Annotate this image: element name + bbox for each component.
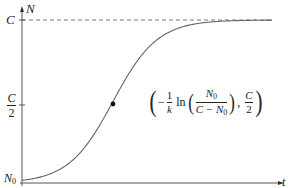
anno-k: k (167, 104, 172, 115)
anno-two: 2 (246, 104, 252, 115)
x-axis-label: t (282, 176, 285, 188)
anno-ln: ln (176, 95, 185, 110)
anno-den-main: C − N (196, 103, 224, 115)
anno-one: 1 (167, 90, 173, 101)
y-axis-label: N (26, 2, 35, 15)
one-over-k: 1 k (167, 90, 173, 115)
paren-close: ) (255, 86, 262, 116)
paren-open: ( (150, 86, 157, 116)
N0-main: N (4, 171, 12, 185)
anno-den-sub: 0 (223, 108, 227, 117)
anno-c: C (245, 90, 252, 101)
anno-denominator: C − N0 (196, 104, 228, 117)
anno-comma: , (237, 95, 240, 110)
N0-label: N0 (4, 172, 16, 186)
paren-open-inner: ( (188, 90, 194, 114)
C-over-2: C 2 (245, 90, 252, 115)
paren-close-inner: ) (229, 90, 235, 114)
anno-numerator: N0 (206, 88, 217, 101)
half-C-label: C 2 (7, 92, 16, 119)
anno-num-main: N (206, 87, 213, 99)
C-label: C (6, 13, 15, 26)
y-axis-arrow-icon (20, 6, 24, 12)
inflection-point (111, 102, 116, 107)
anno-minus: − (158, 95, 165, 110)
inflection-annotation: ( − 1 k ln ( N0 C − N0 ) , C 2 ) (148, 88, 264, 117)
half-C-numerator: C (7, 92, 15, 104)
N0-over-C-minus-N0: N0 C − N0 (196, 88, 228, 117)
half-C-denominator: 2 (9, 107, 15, 119)
N0-sub: 0 (12, 177, 16, 186)
anno-num-sub: 0 (213, 92, 217, 101)
